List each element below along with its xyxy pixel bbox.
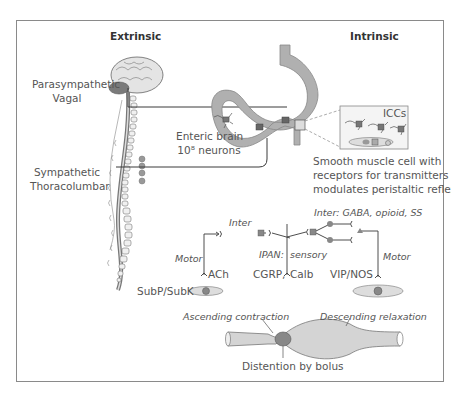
muscle-cell-left-icon — [189, 287, 223, 296]
heading-intrinsic: Intrinsic — [350, 30, 399, 43]
label-cgrp: CGRP, — [253, 268, 285, 281]
label-thoracolumbar: Thoracolumbar — [30, 180, 104, 193]
label-inter-right: Inter: GABA, opioid, SS — [314, 206, 422, 219]
label-ascending-contraction: Ascending contraction — [183, 310, 289, 323]
label-iccs: ICCs — [383, 107, 406, 120]
label-calb: Calb — [290, 268, 313, 281]
label-smooth-muscle-2: receptors for transmitters — [313, 169, 438, 182]
label-sympathetic: Sympathetic — [30, 166, 104, 179]
label-parasympathetic: Parasympathetic — [32, 78, 102, 91]
label-descending-relaxation: Descending relaxation — [320, 310, 427, 323]
label-smooth-muscle-3: modulates peristaltic reflex — [313, 183, 438, 196]
label-subp-subk: SubP/SubK — [137, 285, 194, 298]
label-smooth-muscle-1: Smooth muscle cell with — [313, 155, 438, 168]
label-inter-left: Inter — [229, 216, 251, 229]
label-ach: ACh — [208, 268, 229, 281]
label-neuron-count: 10⁸ neurons — [176, 144, 242, 157]
muscle-cell-right-icon — [353, 285, 403, 297]
vagal-nerve-line — [128, 88, 287, 107]
label-vip-nos: VIP/NOS — [330, 268, 373, 281]
label-ipan: IPAN: — [259, 248, 284, 261]
label-motor-right: Motor — [383, 250, 410, 263]
label-distention-by-bolus: Distention by bolus — [242, 360, 344, 373]
spine-icon — [108, 92, 138, 290]
label-vagal: Vagal — [32, 92, 102, 105]
label-enteric-brain: Enteric brain — [176, 130, 242, 143]
diagram-artwork — [0, 0, 451, 400]
gut-tube-icon — [226, 318, 404, 359]
label-motor-left: Motor — [175, 252, 202, 265]
label-sensory: sensory — [290, 248, 327, 261]
sympathetic-ganglia-icon — [139, 156, 145, 184]
heading-extrinsic: Extrinsic — [110, 30, 161, 43]
